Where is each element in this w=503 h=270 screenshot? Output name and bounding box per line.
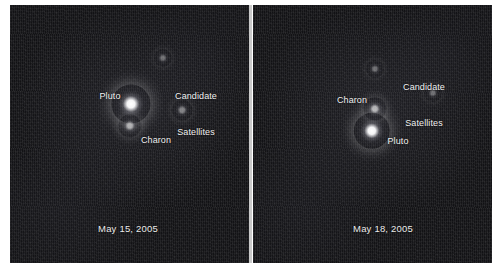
label-candidate-satellites-line1: Candidate (403, 81, 445, 93)
label-pluto: Pluto (99, 91, 120, 102)
panel-divider (249, 5, 252, 263)
label-candidate-satellites-line2: Satellites (175, 126, 217, 138)
label-candidate-satellites: Candidate Satellites (403, 57, 445, 153)
image-panel-may-15: Pluto Charon Candidate Satellites May 15… (10, 5, 249, 263)
pluto-satellites-figure: Pluto Charon Candidate Satellites May 15… (0, 0, 503, 270)
image-panel-may-18: Charon Pluto Candidate Satellites May 18… (253, 5, 492, 263)
label-candidate-satellites: Candidate Satellites (175, 66, 217, 162)
date-label-may-15: May 15, 2005 (98, 223, 158, 234)
label-candidate-satellites-line2: Satellites (403, 117, 445, 129)
label-charon: Charon (337, 95, 367, 106)
date-label-may-18: May 18, 2005 (353, 223, 413, 234)
label-charon: Charon (141, 135, 171, 146)
label-candidate-satellites-line1: Candidate (175, 90, 217, 102)
